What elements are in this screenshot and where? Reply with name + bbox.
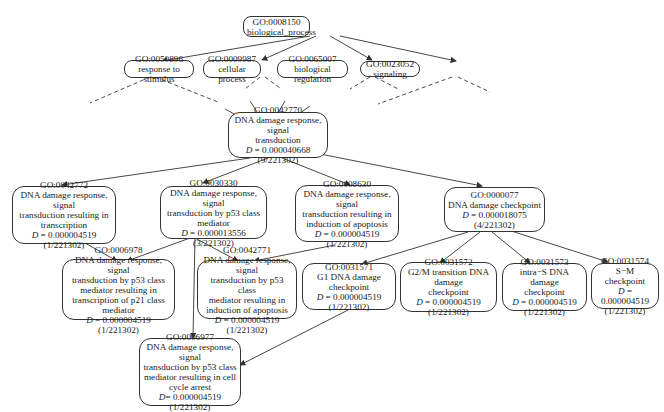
go-term-name: DNA damage response, signal (164, 188, 263, 208)
go-id: GO:0031571 (306, 262, 392, 272)
gene-count: (9/221302) (232, 155, 324, 165)
go-node-signal-transduction-resulting-in-transcription: GO:0042772 DNA damage response, signal t… (12, 186, 116, 244)
go-term-name: signaling (364, 69, 416, 79)
go-id: GO:0008630 (299, 179, 395, 189)
d-value: D = 0.000004519 (506, 297, 583, 307)
go-term-name-cont: transduction (232, 135, 324, 145)
go-node-s-m-checkpoint: GO:0031574 S−M checkpoint D = 0.00000451… (591, 263, 659, 309)
go-id: GO:0065007 (281, 54, 344, 64)
go-term-name-cont: mediator resulting in (201, 295, 293, 305)
go-term-name: intra−S DNA damage (506, 267, 583, 287)
go-term-name-cont: transduction by p53 class (143, 362, 237, 372)
go-term-name-cont: transduction by p53 class (66, 275, 171, 285)
gene-count: (1/221302) (143, 402, 237, 412)
go-id: GO:0042772 (16, 180, 112, 190)
go-node-biological-regulation: GO:0065007 biological regulation (277, 60, 348, 78)
go-node-signal-transduction-resulting-in-apoptosis: GO:0008630 DNA damage response, signal t… (295, 185, 399, 242)
go-term-name-cont: transduction by p53 class (201, 275, 293, 295)
go-term-name: S−M checkpoint (595, 266, 655, 286)
d-value: D = 0.000004519 (404, 297, 493, 307)
go-node-dna-damage-checkpoint: GO:0000077 DNA damage checkpoint D = 0.0… (444, 187, 545, 232)
go-node-dna-damage-response-signal-transduction: GO:0042770 DNA damage response, signal t… (228, 112, 328, 158)
go-term-name-cont: transduction by p53 class (164, 208, 263, 218)
go-term-name-cont: mediator resulting in cell (143, 372, 237, 382)
go-id: GO:0042770 (232, 105, 324, 115)
d-value: D = 0.000040668 (232, 145, 324, 155)
d-value: D = 0.000004519 (299, 229, 395, 239)
go-id: GO:0031573 (506, 257, 583, 267)
go-node-signal-transduction-by-p53: GO:0030330 DNA damage response, signal t… (160, 186, 267, 239)
go-node-cellular-process: GO:0009987 cellular process (203, 60, 261, 78)
d-value: D = 0.000013556 (164, 228, 263, 238)
go-term-name: response to stimulus (128, 64, 190, 84)
go-term-name: G2/M transition DNA damage (404, 267, 493, 287)
edge (340, 36, 456, 61)
go-term-name: G1 DNA damage checkpoint (306, 272, 392, 292)
d-value: D = 0.000004519 (66, 315, 171, 325)
go-term-name: DNA damage response, signal (232, 115, 324, 135)
go-node-p53-cell-cycle-arrest: GO:0006977 DNA damage response, signal t… (139, 338, 241, 406)
go-id: GO:0008150 (247, 17, 306, 27)
go-id: GO:0050896 (128, 54, 190, 64)
gene-count: (1/221302) (506, 307, 583, 317)
go-term-name-cont: checkpoint (404, 287, 493, 297)
go-id: GO:0030330 (164, 178, 263, 188)
d-value: D = 0.000004519 (201, 315, 293, 325)
go-term-name-cont: checkpoint (506, 287, 583, 297)
go-term-name-cont: mediator resulting in (66, 285, 171, 295)
go-term-name-cont: transcription (16, 220, 112, 230)
go-term-name: DNA damage response, signal (299, 189, 395, 209)
go-id: GO:0031574 (595, 256, 655, 266)
go-term-name: DNA damage response, signal (143, 342, 237, 362)
go-id: GO:0000077 (448, 190, 541, 200)
go-id: GO:0023052 (364, 59, 416, 69)
go-node-p53-transcription-of-p21: GO:0006978 DNA damage response, signal t… (62, 259, 175, 320)
go-term-name: biological_process (247, 27, 306, 37)
gene-count: (1/221302) (404, 307, 493, 317)
go-node-g2m-dna-damage-checkpoint: GO:0031572 G2/M transition DNA damage ch… (400, 262, 497, 312)
go-term-name: DNA damage response, signal (201, 255, 293, 275)
d-value: D= 0.000004519 (143, 392, 237, 402)
d-value: D = 0.000004519 (16, 230, 112, 240)
go-node-biological-process: GO:0008150 biological_process (243, 16, 310, 37)
d-value: D = 0.000004519 (595, 286, 655, 306)
go-term-name-cont: transduction resulting in (16, 210, 112, 220)
go-term-name-cont: mediator (164, 218, 263, 228)
go-id: GO:0006978 (66, 245, 171, 255)
go-node-intra-s-dna-damage-checkpoint: GO:0031573 intra−S DNA damage checkpoint… (502, 263, 587, 311)
d-value: D = 0.000018075 (448, 210, 541, 220)
gene-count: (1/221302) (595, 306, 655, 316)
go-term-name: cellular process (207, 64, 257, 84)
go-node-response-to-stimulus: GO:0050896 response to stimulus (124, 60, 194, 78)
gene-count: (1/221302) (306, 302, 392, 312)
d-value: D = 0.000004519 (306, 292, 392, 302)
go-id: GO:0009987 (207, 54, 257, 64)
go-id: GO:0006977 (143, 332, 237, 342)
go-term-name-cont: induction of apoptosis (299, 219, 395, 229)
go-term-name: DNA damage response, signal (66, 255, 171, 275)
gene-count: (1/221302) (299, 239, 395, 249)
gene-count: (4/221302) (448, 220, 541, 230)
go-term-name-cont: cycle arrest (143, 382, 237, 392)
go-node-signaling: GO:0023052 signaling (360, 61, 420, 77)
go-term-name-cont: transcription of p21 class mediator (66, 295, 171, 315)
go-term-name: biological regulation (281, 64, 344, 84)
go-term-name: DNA damage response, signal (16, 190, 112, 210)
go-node-g1-dna-damage-checkpoint: GO:0031571 G1 DNA damage checkpoint D = … (302, 263, 396, 310)
go-term-name-cont: induction of apoptosis (201, 305, 293, 315)
go-id: GO:0031572 (404, 257, 493, 267)
go-term-name-cont: transduction resulting in (299, 209, 395, 219)
go-term-name: DNA damage checkpoint (448, 200, 541, 210)
go-id: GO:0042771 (201, 245, 293, 255)
go-node-p53-induction-of-apoptosis: GO:0042771 DNA damage response, signal t… (197, 260, 297, 319)
